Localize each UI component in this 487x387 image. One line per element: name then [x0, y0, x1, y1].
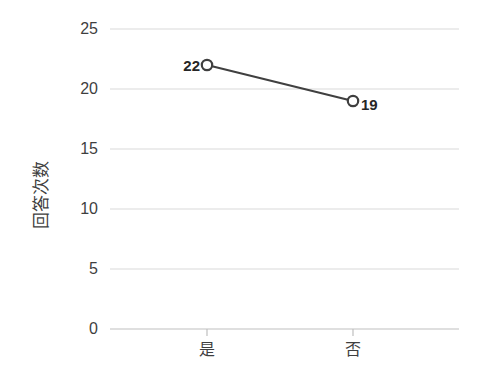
x-tick-label-no: 否 [323, 341, 383, 359]
series-line [207, 65, 353, 101]
data-point-marker-1 [348, 96, 358, 106]
gridlines [110, 29, 459, 269]
data-label-1: 19 [361, 97, 378, 112]
plot-area [0, 0, 487, 387]
x-tick-label-yes: 是 [177, 341, 237, 359]
x-axis-ticks [207, 329, 353, 336]
data-point-marker-0 [202, 60, 212, 70]
data-label-0: 22 [183, 58, 200, 73]
line-chart: 回答次数 25 20 15 10 5 0 22 19 是 否 [0, 0, 487, 387]
